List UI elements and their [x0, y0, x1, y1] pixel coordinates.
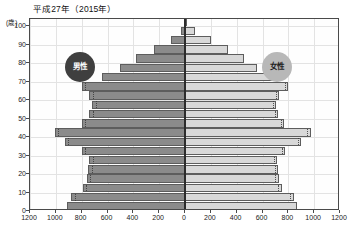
bar-segment-marker	[93, 92, 94, 99]
bar-男性-0-4	[67, 202, 185, 210]
grid-line-vertical	[30, 19, 31, 209]
x-tick-mark	[184, 210, 185, 213]
bar-女性-55-59	[185, 101, 276, 109]
plot-area	[29, 18, 339, 210]
bar-segment-marker	[307, 129, 308, 136]
bar-segment-marker	[58, 129, 59, 136]
bar-男性-25-29	[89, 156, 185, 164]
x-tick-mark	[107, 210, 108, 213]
bar-segment-marker	[273, 101, 274, 108]
bar-女性-20-24	[185, 165, 278, 173]
grid-line-vertical	[56, 19, 57, 209]
bar-男性-80-84	[136, 54, 185, 62]
bar-segment-marker	[282, 148, 283, 155]
bar-segment-marker	[290, 194, 291, 201]
x-tick-mark	[29, 210, 30, 213]
bar-segment-marker	[90, 175, 91, 182]
center-axis-line	[184, 19, 185, 209]
bar-女性-15-19	[185, 174, 279, 182]
grid-line-vertical	[288, 19, 289, 209]
bar-女性-90-94	[185, 36, 211, 44]
bar-女性-60-64	[185, 91, 279, 99]
bar-男性-65-69	[82, 82, 185, 90]
bar-segment-marker	[85, 120, 86, 127]
x-tick-mark	[236, 210, 237, 213]
bar-segment-marker	[275, 166, 276, 173]
bar-男性-10-14	[83, 184, 185, 192]
x-tick-mark	[313, 210, 314, 213]
bar-女性-95-99	[185, 27, 195, 35]
bar-男性-50-54	[89, 110, 185, 118]
x-tick-mark	[132, 210, 133, 213]
legend-badge-female-label: 女性	[270, 63, 284, 71]
legend-badge-male: 男性	[65, 52, 95, 82]
legend-badge-female: 女性	[262, 52, 292, 82]
bar-segment-marker	[68, 138, 69, 145]
bar-segment-marker	[85, 83, 86, 90]
bar-女性-45-49	[185, 119, 284, 127]
x-tick-label: 1200	[323, 214, 348, 221]
bar-女性-75-79	[185, 64, 257, 72]
bar-男性-75-79	[120, 64, 185, 72]
grid-line-vertical	[82, 19, 83, 209]
bar-segment-marker	[93, 111, 94, 118]
bar-男性-60-64	[89, 91, 185, 99]
legend-badge-male-label: 男性	[73, 63, 87, 71]
x-tick-mark	[262, 210, 263, 213]
bar-女性-50-54	[185, 110, 278, 118]
x-tick-mark	[287, 210, 288, 213]
bar-segment-marker	[285, 83, 286, 90]
bar-segment-marker	[298, 138, 299, 145]
bar-segment-marker	[275, 175, 276, 182]
bar-男性-5-9	[71, 193, 185, 201]
bar-男性-20-24	[88, 165, 185, 173]
bar-segment-marker	[281, 120, 282, 127]
bar-segment-marker	[96, 101, 97, 108]
x-tick-mark	[210, 210, 211, 213]
bar-segment-marker	[85, 148, 86, 155]
bar-男性-90-94	[171, 36, 185, 44]
bar-男性-85-89	[154, 45, 185, 53]
bar-男性-15-19	[87, 174, 185, 182]
bar-男性-40-44	[55, 128, 185, 136]
x-tick-mark	[158, 210, 159, 213]
bar-segment-marker	[86, 185, 87, 192]
grid-line-vertical	[314, 19, 315, 209]
bar-女性-40-44	[185, 128, 311, 136]
bar-男性-55-59	[92, 101, 185, 109]
bar-男性-30-34	[82, 147, 185, 155]
bar-segment-marker	[278, 185, 279, 192]
x-tick-mark	[81, 210, 82, 213]
bar-女性-25-29	[185, 156, 277, 164]
bar-女性-70-74	[185, 73, 273, 81]
bar-女性-80-84	[185, 54, 244, 62]
bar-segment-marker	[75, 194, 76, 201]
bar-女性-10-14	[185, 184, 282, 192]
bar-男性-35-39	[65, 138, 185, 146]
bar-女性-0-4	[185, 202, 297, 210]
bar-segment-marker	[274, 157, 275, 164]
bar-segment-marker	[93, 157, 94, 164]
bar-女性-35-39	[185, 138, 301, 146]
bar-男性-45-49	[82, 119, 185, 127]
bar-女性-65-69	[185, 82, 288, 90]
population-pyramid-chart: 平成27年（2015年） (歳) 0102030405060708090100 …	[0, 0, 348, 228]
bar-女性-30-34	[185, 147, 285, 155]
x-tick-mark	[339, 210, 340, 213]
x-tick-mark	[55, 210, 56, 213]
bar-女性-5-9	[185, 193, 294, 201]
bar-segment-marker	[92, 166, 93, 173]
bar-segment-marker	[276, 92, 277, 99]
bar-女性-85-89	[185, 45, 228, 53]
bar-男性-70-74	[102, 73, 185, 81]
bar-segment-marker	[275, 111, 276, 118]
